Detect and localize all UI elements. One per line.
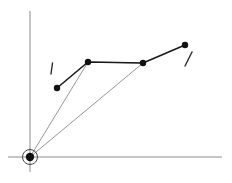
vertex-marker-p2 [85,59,91,65]
origin-dot-icon [26,153,34,161]
figure-canvas [0,0,232,183]
geometry-diagram [0,0,232,183]
vertex-marker-p1 [54,85,60,91]
vertex-marker-p3 [140,60,146,66]
figure-background [0,0,232,183]
vertex-marker-p4 [182,42,188,48]
